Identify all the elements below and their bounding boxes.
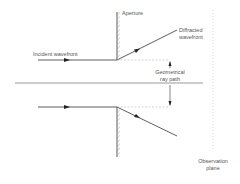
geometrical-label-line2: ray path — [153, 76, 187, 83]
observation-plane-label: Observation plane — [196, 158, 230, 171]
upper-incident-ray — [38, 58, 117, 62]
aperture-upper — [117, 12, 120, 60]
diffracted-label-line1: Diffracted — [179, 27, 203, 34]
upper-diffracted-ray — [117, 30, 177, 60]
diffracted-label-line2: wavefront — [179, 34, 203, 41]
geometrical-label-line1: Geometrical — [153, 69, 187, 76]
aperture-label: Aperture — [122, 10, 143, 17]
diffracted-wavefront-label: Diffracted wavefront — [179, 27, 203, 40]
geometrical-ray-path-label: Geometrical ray path — [153, 69, 187, 82]
incident-wavefront-label: Incident wavefront — [33, 51, 78, 58]
observation-label-line2: plane — [196, 165, 230, 172]
lower-incident-ray — [38, 105, 117, 109]
diffraction-diagram — [0, 0, 240, 184]
aperture-lower — [117, 107, 120, 157]
lower-diffracted-ray — [117, 107, 177, 136]
observation-label-line1: Observation — [196, 158, 230, 165]
